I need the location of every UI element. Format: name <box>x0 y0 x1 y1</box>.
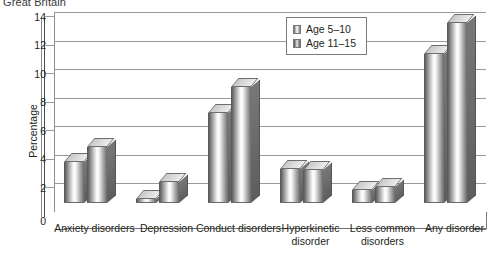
x-axis-category-label: Any disorder <box>412 222 495 235</box>
bar-chart: Great Britain 02468101214 Percentage Age… <box>0 0 495 261</box>
y-tick-label: 14 <box>34 11 46 23</box>
y-tick-label: 6 <box>40 125 46 137</box>
bar-front-face <box>303 170 323 203</box>
bar-front-face <box>447 23 467 203</box>
bar-front-face <box>231 87 251 203</box>
y-tick-label: 8 <box>40 96 46 108</box>
bar <box>136 199 156 203</box>
bar-swatch-icon <box>293 25 301 34</box>
bar-side-face <box>251 80 260 203</box>
bar <box>64 162 84 203</box>
bar-front-face <box>87 147 107 203</box>
bar <box>352 190 372 203</box>
bar-series-layer <box>54 12 486 212</box>
y-axis-label: Percentage <box>27 104 39 158</box>
x-axis-category-labels: Anxiety disordersDepressionConduct disor… <box>54 222 486 258</box>
bar <box>424 54 444 203</box>
plot-area: 02468101214 <box>54 12 486 212</box>
bar-group <box>424 12 476 212</box>
y-tick-label: 4 <box>40 153 46 165</box>
bar <box>280 169 300 203</box>
y-tick-label: 12 <box>34 39 46 51</box>
bar <box>159 182 179 203</box>
legend: Age 5–10 Age 11–15 <box>286 17 367 55</box>
bar-side-face <box>467 15 476 203</box>
bar-front-face <box>136 199 156 203</box>
y-tick-label: 2 <box>40 182 46 194</box>
bar <box>375 187 395 203</box>
bar-front-face <box>280 169 300 203</box>
bar-side-face <box>107 140 116 203</box>
legend-label: Age 11–15 <box>306 36 356 50</box>
bar-front-face <box>64 162 84 203</box>
bar-swatch-icon <box>293 39 301 48</box>
bar <box>231 87 251 203</box>
bar <box>303 170 323 203</box>
bar <box>447 23 467 203</box>
bar <box>208 113 228 203</box>
legend-item: Age 11–15 <box>293 36 356 50</box>
bar-front-face <box>159 182 179 203</box>
bar <box>87 147 107 203</box>
y-tick-label: 0 <box>40 215 46 227</box>
bar-front-face <box>375 187 395 203</box>
bar-front-face <box>208 113 228 203</box>
bar-side-face <box>323 163 332 203</box>
bar-group <box>136 12 188 212</box>
y-tick-label: 10 <box>34 68 46 80</box>
bar-group <box>64 12 116 212</box>
bar-group <box>208 12 260 212</box>
bar-front-face <box>352 190 372 203</box>
bar-front-face <box>424 54 444 203</box>
legend-label: Age 5–10 <box>306 22 351 36</box>
legend-item: Age 5–10 <box>293 22 356 36</box>
